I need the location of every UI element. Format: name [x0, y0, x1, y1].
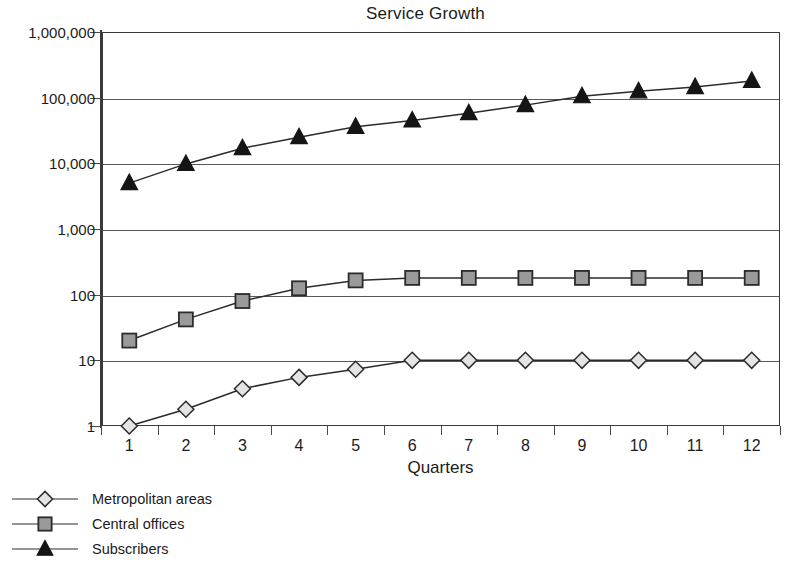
triangle-icon [12, 538, 78, 560]
x-axis-tick-label: 8 [497, 437, 553, 455]
legend-item-triangle[interactable]: Subscribers [12, 536, 342, 561]
x-axis-tick [554, 426, 555, 435]
triangle-marker [37, 540, 53, 555]
gridline [103, 99, 779, 100]
square-icon [12, 513, 78, 535]
y-axis-tick-label: 10,000 [7, 155, 95, 172]
y-axis-tick-label: 1,000 [7, 221, 95, 238]
x-axis-title: Quarters [101, 458, 780, 478]
chart-page: Service Growth 1101001,00010,000100,0001… [0, 0, 796, 579]
chart-title: Service Growth [0, 4, 796, 24]
legend-item-diamond[interactable]: Metropolitan areas [12, 486, 342, 511]
x-axis-tick [101, 426, 102, 435]
x-axis-tick [214, 426, 215, 435]
legend-label: Metropolitan areas [78, 491, 212, 507]
square-marker [38, 517, 51, 530]
y-axis-tick-label: 1 [7, 418, 95, 435]
y-axis-tick-label: 10 [7, 352, 95, 369]
gridline [103, 164, 779, 165]
x-axis-tick-label: 5 [328, 437, 384, 455]
y-axis-tick-label: 1,000,000 [7, 24, 95, 41]
x-axis-tick [723, 426, 724, 435]
x-axis-tick [384, 426, 385, 435]
x-axis-tick [780, 426, 781, 435]
x-axis-tick [610, 426, 611, 435]
x-axis-tick-label: 12 [724, 437, 780, 455]
x-axis-tick-label: 10 [611, 437, 667, 455]
x-axis-tick-label: 9 [554, 437, 610, 455]
legend-label: Central offices [78, 516, 184, 532]
x-axis-tick-label: 6 [384, 437, 440, 455]
diamond-icon [12, 488, 78, 510]
x-axis-tick [158, 426, 159, 435]
legend-marker-diamond-icon [12, 488, 78, 510]
x-axis-tick-label: 7 [441, 437, 497, 455]
gridline [103, 361, 779, 362]
chart-legend: Metropolitan areasCentral officesSubscri… [12, 486, 342, 561]
x-axis-tick-label: 3 [214, 437, 270, 455]
legend-item-square[interactable]: Central offices [12, 511, 342, 536]
x-axis-tick [441, 426, 442, 435]
x-axis-tick-label: 4 [271, 437, 327, 455]
x-axis-tick-label: 2 [158, 437, 214, 455]
gridline [103, 296, 779, 297]
legend-marker-triangle-icon [12, 538, 78, 560]
y-axis-tick-label: 100 [7, 286, 95, 303]
legend-marker-square-icon [12, 513, 78, 535]
y-axis-tick-label: 100,000 [7, 89, 95, 106]
diamond-marker [37, 491, 52, 506]
legend-label: Subscribers [78, 541, 169, 557]
x-axis-tick [271, 426, 272, 435]
x-axis-tick [667, 426, 668, 435]
x-axis-tick-label: 1 [101, 437, 157, 455]
x-axis-tick [327, 426, 328, 435]
gridline [103, 230, 779, 231]
x-axis-tick-label: 11 [667, 437, 723, 455]
x-axis-tick [497, 426, 498, 435]
plot-area [101, 32, 780, 426]
